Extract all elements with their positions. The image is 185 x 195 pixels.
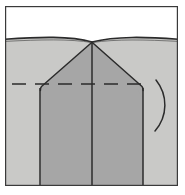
sky-region [5, 6, 178, 40]
perspective-drawing [0, 0, 185, 195]
drawing-canvas: Perspective line drawing of a gabled bui… [0, 0, 185, 195]
